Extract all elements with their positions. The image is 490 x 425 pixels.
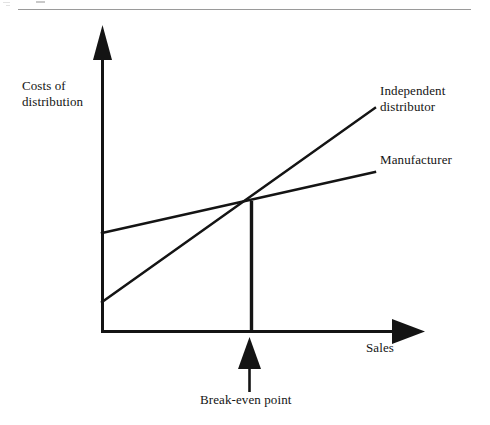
series-line-independent-distributor <box>102 108 375 302</box>
y-axis-label: Costs of distribution <box>22 78 83 109</box>
y-axis-arrowhead-icon <box>93 25 112 60</box>
breakeven-up-arrow-icon <box>238 337 261 369</box>
x-axis-label: Sales <box>366 340 394 356</box>
series-label-manufacturer: Manufacturer <box>380 152 452 168</box>
break-even-chart <box>0 0 490 425</box>
series-label-independent-distributor: Independent distributor <box>380 83 445 114</box>
figure-canvas: Costs of distribution Independent distri… <box>0 0 490 425</box>
series-line-manufacturer <box>102 172 375 233</box>
breakeven-annotation-label: Break-even point <box>200 392 291 408</box>
x-axis-arrowhead-icon <box>392 319 425 344</box>
